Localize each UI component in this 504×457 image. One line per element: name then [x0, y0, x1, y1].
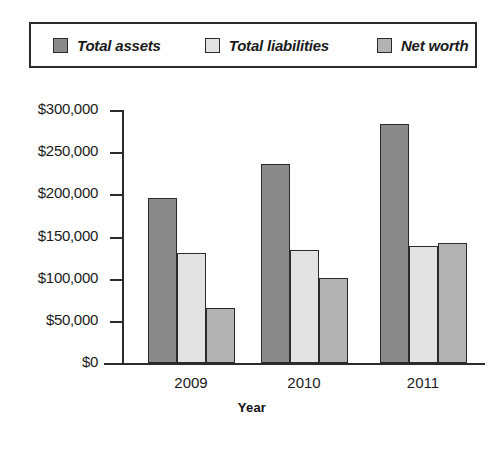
- x-axis-label: 2011: [378, 374, 468, 391]
- y-tick-label: $200,000: [38, 184, 98, 201]
- chart-legend: Total assets Total liabilities Net worth: [29, 22, 477, 68]
- bar: [206, 308, 235, 363]
- y-tick-mark: [110, 321, 122, 323]
- bar-group-2011: [380, 110, 467, 363]
- y-tick-label: $150,000: [38, 227, 98, 244]
- bar: [261, 164, 290, 363]
- y-tick-mark: [110, 279, 122, 281]
- legend-label-total-liabilities: Total liabilities: [229, 37, 329, 54]
- y-tick-mark: [110, 110, 122, 112]
- y-tick-mark: [110, 237, 122, 239]
- legend-item-total-liabilities: Total liabilities: [205, 24, 329, 66]
- legend-label-total-assets: Total assets: [77, 37, 161, 54]
- y-tick-label: $100,000: [38, 269, 98, 286]
- legend-label-net-worth: Net worth: [401, 37, 468, 54]
- x-axis-line: [104, 363, 485, 365]
- x-axis-title: Year: [0, 400, 504, 415]
- bar: [148, 198, 177, 363]
- y-tick-label: $0: [82, 353, 98, 370]
- y-tick-label: $250,000: [38, 142, 98, 159]
- legend-swatch-total-assets: [53, 38, 68, 53]
- y-tick-mark: [110, 363, 122, 365]
- legend-item-total-assets: Total assets: [53, 24, 161, 66]
- legend-swatch-total-liabilities: [205, 38, 220, 53]
- bar-chart-figure: Total assets Total liabilities Net worth…: [0, 0, 504, 457]
- bar-group-2009: [148, 110, 235, 363]
- bar: [380, 124, 409, 363]
- bar: [177, 253, 206, 363]
- bar: [290, 250, 319, 363]
- legend-item-net-worth: Net worth: [377, 24, 468, 66]
- y-tick-label: $300,000: [38, 100, 98, 117]
- bar: [409, 246, 438, 363]
- x-axis-label: 2010: [259, 374, 349, 391]
- legend-swatch-net-worth: [377, 38, 392, 53]
- bar: [319, 278, 348, 363]
- x-axis-label: 2009: [146, 374, 236, 391]
- y-tick-mark: [110, 152, 122, 154]
- y-tick-label: $50,000: [46, 311, 98, 328]
- bar-group-2010: [261, 110, 348, 363]
- bar: [438, 243, 467, 363]
- y-tick-mark: [110, 194, 122, 196]
- plot-area: [122, 110, 485, 363]
